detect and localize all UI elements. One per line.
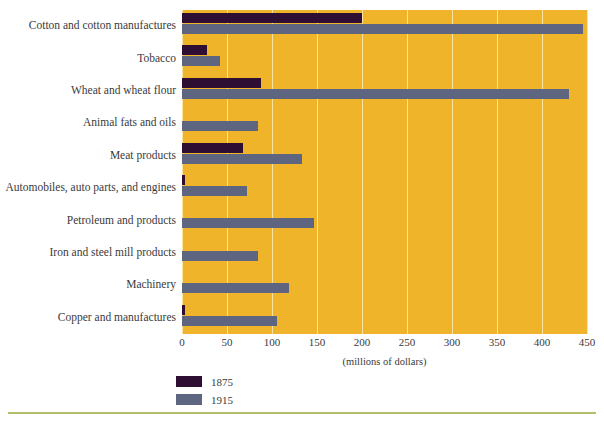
category-axis-labels: Cotton and cotton manufacturesTobaccoWhe…	[0, 10, 176, 334]
bar-group	[182, 10, 587, 42]
bar-1875	[182, 143, 243, 153]
bar-group	[182, 204, 587, 236]
bar-group	[182, 172, 587, 204]
legend-item-1875: 1875	[176, 374, 233, 389]
bar-group	[182, 107, 587, 139]
bar-group	[182, 42, 587, 74]
bar-1915	[182, 89, 569, 99]
bar-1915	[182, 154, 302, 164]
category-label: Automobiles, auto parts, and engines	[0, 181, 176, 194]
bottom-divider	[8, 412, 596, 414]
bar-1915	[182, 283, 289, 293]
x-tick-350: 350	[489, 336, 506, 348]
bar-1915	[182, 56, 220, 66]
bar-group	[182, 237, 587, 269]
bar-chart: Cotton and cotton manufacturesTobaccoWhe…	[0, 0, 604, 425]
bar-1915	[182, 316, 277, 326]
bar-1915	[182, 121, 258, 131]
bar-1875	[182, 305, 185, 315]
bar-group	[182, 75, 587, 107]
x-tick-0: 0	[179, 336, 185, 348]
legend-swatch-1875	[176, 376, 202, 387]
category-label: Petroleum and products	[0, 214, 176, 227]
legend: 18751915	[176, 374, 233, 410]
bar-1915	[182, 218, 314, 228]
bar-1875	[182, 13, 362, 23]
category-label: Copper and manufactures	[0, 311, 176, 324]
x-tick-400: 400	[534, 336, 551, 348]
category-label: Wheat and wheat flour	[0, 84, 176, 97]
bar-1915	[182, 186, 247, 196]
gridline-450	[587, 10, 588, 334]
x-tick-50: 50	[222, 336, 233, 348]
x-tick-250: 250	[399, 336, 416, 348]
x-tick-150: 150	[309, 336, 326, 348]
category-label: Iron and steel mill products	[0, 246, 176, 259]
legend-label-1875: 1875	[211, 376, 233, 388]
bar-group	[182, 269, 587, 301]
legend-item-1915: 1915	[176, 392, 233, 407]
x-axis-tick-labels: 050100150200250300350400450	[182, 336, 587, 354]
bar-1915	[182, 251, 258, 261]
category-label: Machinery	[0, 278, 176, 291]
category-label: Cotton and cotton manufactures	[0, 19, 176, 32]
bar-1875	[182, 175, 185, 185]
category-label: Tobacco	[0, 52, 176, 65]
x-tick-450: 450	[579, 336, 596, 348]
category-label: Animal fats and oils	[0, 116, 176, 129]
x-tick-100: 100	[264, 336, 281, 348]
legend-label-1915: 1915	[211, 394, 233, 406]
x-tick-300: 300	[444, 336, 461, 348]
x-axis-title: (millions of dollars)	[182, 356, 587, 367]
bar-group	[182, 302, 587, 334]
category-label: Meat products	[0, 149, 176, 162]
plot-area	[182, 10, 587, 334]
bar-1875	[182, 45, 207, 55]
x-tick-200: 200	[354, 336, 371, 348]
bar-1875	[182, 78, 261, 88]
bar-group	[182, 140, 587, 172]
bar-1915	[182, 24, 583, 34]
legend-swatch-1915	[176, 394, 202, 405]
